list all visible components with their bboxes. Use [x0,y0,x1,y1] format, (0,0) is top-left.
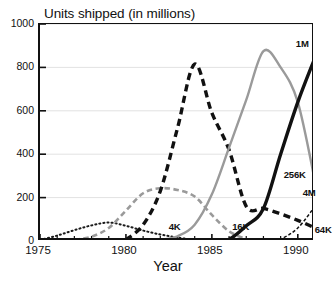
series-label-64k: 64K [315,224,332,235]
series-label-256k: 256K [284,169,306,180]
series-label-16k: 16K [232,221,249,232]
y-axis-tick-labels: 02004006008001000 [0,0,36,284]
series-label-1m: 1M [296,38,309,49]
y-axis-tick-label: 600 [16,104,34,116]
y-axis-tick-label: 1000 [11,17,34,29]
x-axis-tick-label: 1990 [283,244,309,256]
x-axis-tick-label: 1980 [111,244,137,256]
series-line-256k [160,50,312,238]
y-axis-tick-label: 400 [16,147,34,159]
chart-title: Units shipped (in millions) [44,6,195,21]
y-axis-tick-label: 200 [16,191,34,203]
series-line-64k [126,64,312,238]
plot-area [38,23,313,240]
series-label-4k: 4K [169,221,181,232]
x-axis-title-text: Year [153,258,182,274]
series-line-4m [263,206,312,238]
plot-inner [40,24,312,238]
series-line-16k [74,188,246,238]
series-label-4m: 4M [303,187,316,198]
x-axis-tick-label: 1975 [25,244,51,256]
x-axis-tick-label: 1985 [197,244,223,256]
y-axis-tick-label: 800 [16,60,34,72]
chart-canvas [40,24,312,238]
x-axis-title: Year [0,258,328,274]
